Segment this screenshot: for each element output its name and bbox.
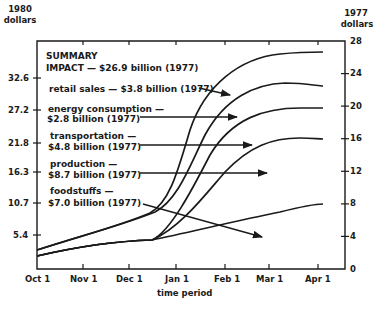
left-tick-21-8: 21.8 (8, 139, 29, 148)
energy-value: $2.8 billion (1977) (47, 114, 140, 124)
retail-label: retail sales — $3.8 billion (1977) (49, 84, 214, 94)
x-tick-dec-1: Dec 1 (116, 275, 143, 284)
foodstuffs-title: foodstuffs — (50, 186, 114, 196)
chart-canvas (0, 0, 377, 311)
left-tick-5-4: 5.4 (13, 231, 28, 240)
x-ticks (83, 41, 318, 269)
line-production-foodstuffs (37, 204, 323, 256)
production-value: $8.7 billion (1977) (48, 170, 141, 180)
plot-frame (37, 41, 345, 269)
x-tick-feb-1: Feb 1 (214, 275, 240, 284)
transport-value: $4.8 billion (1977) (48, 142, 141, 152)
arrow-foodstuffs (143, 204, 262, 237)
x-tick-mar-1: Mar 1 (256, 275, 283, 284)
right-tick-12: 12 (350, 167, 362, 176)
series-lines (37, 52, 323, 256)
energy-title: energy consumption — (48, 104, 164, 114)
x-tick-jan-1: Jan 1 (165, 275, 189, 284)
right-tick-24: 24 (350, 69, 362, 78)
right-tick-20: 20 (350, 102, 362, 111)
right-tick-4: 4 (350, 232, 356, 241)
production-title: production — (50, 159, 117, 169)
left-tick-27-2: 27.2 (8, 106, 29, 115)
x-tick-oct-1: Oct 1 (25, 275, 50, 284)
right-tick-16: 16 (350, 134, 362, 143)
right-tick-0: 0 (350, 265, 356, 274)
line-transportation (37, 138, 323, 256)
right-tick-28: 28 (350, 37, 362, 46)
summary-title: SUMMARY (46, 51, 98, 61)
left-tick-32-6: 32.6 (8, 74, 29, 83)
left-tick-10-7: 10.7 (8, 199, 29, 208)
x-axis-label: time period (157, 289, 212, 298)
foodstuffs-value: $7.0 billion (1977) (48, 198, 141, 208)
x-tick-nov-1: Nov 1 (70, 275, 97, 284)
x-tick-apr-1: Apr 1 (305, 275, 331, 284)
summary-value: IMPACT — $26.9 billion (1977) (46, 63, 198, 73)
transport-title: transportation — (50, 131, 136, 141)
left-tick-16-3: 16.3 (8, 168, 29, 177)
right-tick-8: 8 (350, 199, 356, 208)
